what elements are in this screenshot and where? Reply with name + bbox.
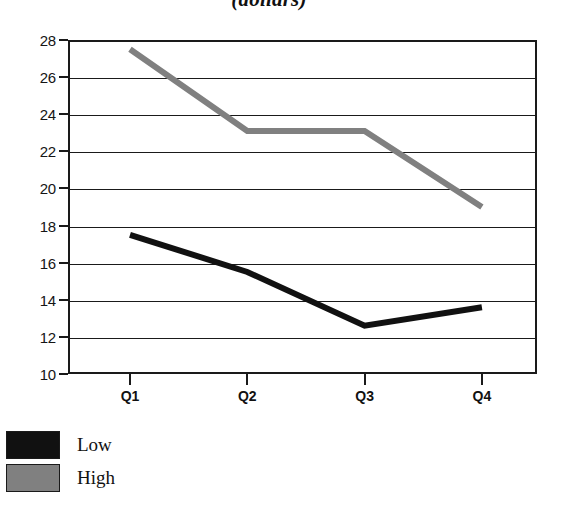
x-tick-mark	[364, 374, 366, 385]
y-tick-label: 26	[0, 69, 56, 86]
y-tick-label: 12	[0, 328, 56, 345]
plot-area	[68, 40, 537, 374]
x-tick-mark	[246, 374, 248, 385]
gridline	[70, 115, 535, 116]
legend-item: Low	[6, 428, 256, 461]
x-tick-label: Q2	[238, 388, 257, 404]
y-tick-label: 20	[0, 180, 56, 197]
line-chart-figure: (dollars) 28262422201816141210 Q1Q2Q3Q4 …	[0, 0, 568, 524]
y-tick-mark	[59, 262, 68, 264]
gridline	[70, 152, 535, 153]
y-tick-mark	[59, 187, 68, 189]
x-axis: Q1Q2Q3Q4	[0, 374, 568, 420]
x-tick-mark	[129, 374, 131, 385]
y-tick-mark	[59, 150, 68, 152]
y-tick-mark	[59, 113, 68, 115]
y-tick-mark	[59, 336, 68, 338]
legend-label: High	[77, 467, 115, 489]
gridline	[70, 78, 535, 79]
legend-label: Low	[77, 434, 112, 456]
y-tick-label: 24	[0, 106, 56, 123]
x-tick-mark	[481, 374, 483, 385]
chart-title: (dollars)	[0, 0, 568, 12]
y-tick-mark	[59, 39, 68, 41]
y-axis: 28262422201816141210	[0, 40, 56, 374]
y-tick-label: 16	[0, 254, 56, 271]
y-tick-label: 14	[0, 291, 56, 308]
y-tick-mark	[59, 225, 68, 227]
x-tick-label: Q4	[473, 388, 492, 404]
gridline	[70, 264, 535, 265]
x-tick-label: Q3	[355, 388, 374, 404]
y-tick-mark	[59, 299, 68, 301]
gridline	[70, 301, 535, 302]
gridline	[70, 189, 535, 190]
legend-swatch	[6, 464, 60, 492]
y-tick-label: 18	[0, 217, 56, 234]
gridline	[70, 227, 535, 228]
chart-legend: LowHigh	[6, 428, 256, 494]
legend-item: High	[6, 461, 256, 494]
y-tick-mark	[59, 76, 68, 78]
x-tick-label: Q1	[121, 388, 140, 404]
legend-swatch	[6, 431, 60, 459]
y-tick-label: 22	[0, 143, 56, 160]
gridline	[70, 338, 535, 339]
y-tick-label: 28	[0, 32, 56, 49]
